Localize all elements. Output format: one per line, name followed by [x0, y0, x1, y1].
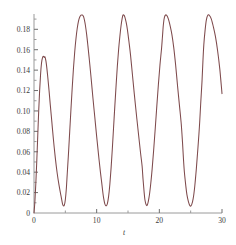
- chart-container: 00.020.040.060.080.100.120.140.160.18 01…: [0, 0, 236, 245]
- y-tick-label: 0.18: [17, 25, 30, 34]
- chart-background: [0, 0, 236, 245]
- y-tick-label: 0.12: [17, 86, 30, 95]
- y-tick-label: 0.10: [17, 107, 30, 116]
- y-tick-label: 0.16: [17, 46, 30, 55]
- line-chart: 00.020.040.060.080.100.120.140.160.18 01…: [0, 0, 236, 245]
- y-tick-label: 0.08: [17, 127, 30, 136]
- y-tick-label: 0.06: [17, 148, 30, 157]
- y-tick-label: 0: [26, 209, 30, 218]
- x-tick-label: 20: [156, 216, 164, 225]
- y-tick-label: 0.14: [17, 66, 30, 75]
- x-tick-label: 10: [93, 216, 101, 225]
- y-tick-label: 0.04: [17, 168, 30, 177]
- y-tick-label: 0.02: [17, 188, 30, 197]
- x-tick-label: 0: [32, 216, 36, 225]
- x-tick-label: 30: [218, 216, 226, 225]
